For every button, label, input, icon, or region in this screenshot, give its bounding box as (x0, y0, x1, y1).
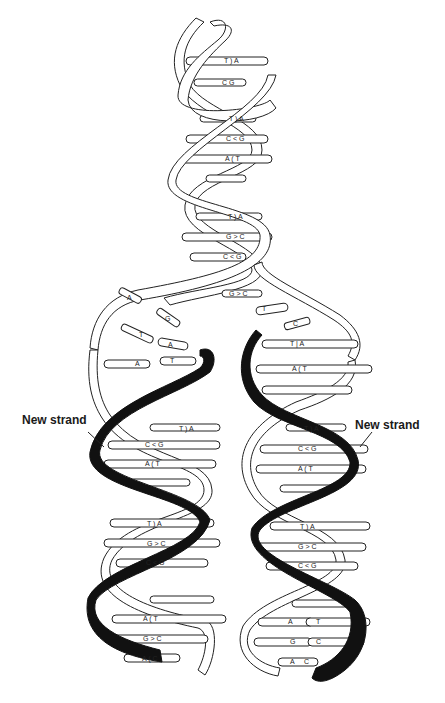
svg-text:A ( T: A ( T (292, 365, 307, 373)
svg-text:A: A (290, 658, 295, 665)
new-strand-label-left: New strand (22, 413, 87, 427)
svg-text:T: T (170, 357, 175, 364)
svg-text:T: T (316, 618, 321, 625)
svg-text:T | A: T | A (290, 340, 304, 348)
svg-text:T ) A: T ) A (300, 523, 315, 531)
svg-text:C < G: C < G (298, 562, 317, 569)
svg-text:G: G (165, 315, 170, 322)
svg-text:C: C (304, 658, 309, 665)
svg-text:C < G: C < G (226, 135, 245, 142)
right-old-strand (240, 360, 355, 676)
left-daughter-helix: T ) A C < G A ( T T ) A G > C C < G A ( … (87, 349, 226, 675)
svg-text:G > C: G > C (298, 543, 317, 550)
parent-helix: T ) A C G T ) A C < G A ( T T ) A G > C … (90, 18, 360, 360)
svg-text:C < G: C < G (146, 559, 165, 566)
svg-text:T ) A: T ) A (229, 115, 244, 123)
svg-text:A ( T: A ( T (225, 155, 240, 163)
svg-text:A: A (168, 341, 173, 348)
svg-text:G > C: G > C (226, 233, 245, 240)
svg-text:T ) A: T ) A (228, 213, 243, 221)
svg-text:C G: C G (222, 79, 234, 86)
svg-text:A ( C: A ( C (142, 655, 158, 663)
svg-text:C: C (293, 320, 298, 327)
svg-text:T ) A: T ) A (147, 520, 162, 528)
right-daughter-helix: T | A A ( T T ) A C < G A ( T T ) A G > … (240, 330, 372, 681)
svg-text:C < G: C < G (298, 445, 317, 452)
svg-text:A ( T: A ( T (143, 615, 158, 623)
svg-text:T: T (139, 331, 144, 338)
svg-text:C: C (316, 638, 321, 645)
svg-text:T ) A: T ) A (224, 57, 239, 65)
svg-text:A: A (127, 294, 132, 301)
svg-text:G > C: G > C (143, 635, 162, 642)
new-strand-right-leader (360, 432, 372, 447)
svg-text:C < G: C < G (223, 253, 242, 260)
svg-text:C < G: C < G (145, 441, 164, 448)
new-strand-label-right: New strand (355, 418, 420, 432)
svg-text:G: G (290, 638, 295, 645)
svg-text:A: A (288, 618, 293, 625)
svg-text:G > C: G > C (229, 290, 248, 297)
svg-text:A: A (135, 360, 140, 367)
svg-text:T: T (262, 305, 267, 312)
dna-replication-diagram: T ) A C G T ) A C < G A ( T T ) A G > C … (0, 0, 445, 703)
svg-text:A ( T: A ( T (298, 465, 313, 473)
svg-text:G > C: G > C (147, 540, 166, 547)
svg-text:A ( T: A ( T (145, 460, 160, 468)
svg-text:T ) A: T ) A (179, 425, 194, 433)
svg-text:T ) A: T ) A (304, 425, 319, 433)
